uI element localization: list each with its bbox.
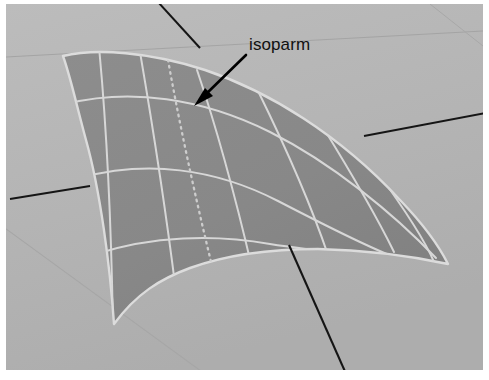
viewport-3d[interactable]: isoparm	[0, 0, 489, 380]
scene-canvas	[0, 0, 489, 380]
isoparm-callout-label: isoparm	[249, 36, 310, 53]
